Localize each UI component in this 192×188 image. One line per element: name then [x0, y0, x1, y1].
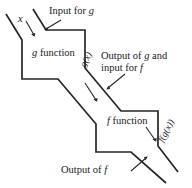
annotation-output-of-g-input-for-f: Output of g and input for f — [101, 50, 167, 74]
pipe-lower-left-boundary — [6, 14, 166, 183]
g-function-box-label-text: function — [37, 47, 75, 58]
annotation-output-of-f: Output of f — [61, 164, 107, 176]
annotation-output-of-f-var: f — [104, 164, 107, 175]
function-machine-diagram: x Input for g g function Output of g and… — [0, 0, 192, 188]
pointer-output-of-g — [106, 74, 125, 89]
pipe-upper-right-boundary — [33, 9, 178, 172]
g-function-box-label: g function — [32, 47, 75, 59]
annotation-output-of-g-line1: Output of g and — [101, 50, 167, 62]
annotation-pointer-group — [44, 20, 157, 171]
annotation-input-for-f-text: input for — [101, 62, 140, 73]
f-function-box-label: f function — [107, 115, 148, 127]
annotation-input-for-f-var: f — [140, 62, 143, 73]
annotation-input-for-g-text: Input for — [49, 5, 89, 16]
flow-arrow-gx-channel — [85, 83, 98, 102]
f-function-box-label-text: function — [110, 115, 148, 126]
annotation-output-of-g-tail: and — [149, 50, 167, 61]
flow-arrow-input — [26, 21, 35, 37]
pointer-f-function — [146, 127, 157, 142]
annotation-input-for-f-line2: input for f — [101, 62, 167, 74]
pointer-input-for-g — [44, 20, 61, 30]
annotation-input-for-g-var: g — [89, 5, 94, 16]
input-variable-label: x — [18, 13, 23, 25]
annotation-output-of-g-text: Output of — [101, 50, 144, 61]
annotation-input-for-g: Input for g — [49, 5, 94, 17]
pipe-outline-graphic — [0, 0, 192, 188]
annotation-output-of-f-text: Output of — [61, 164, 104, 175]
